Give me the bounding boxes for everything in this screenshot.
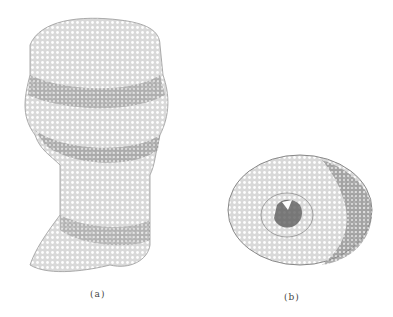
fossil-side-view-illustration	[20, 15, 170, 280]
panel-label-a: (a)	[90, 289, 105, 299]
figure-panel-b	[222, 150, 377, 270]
panel-label-b: (b)	[284, 292, 300, 302]
figure-panel-a	[20, 15, 170, 280]
fossil-top-view-illustration	[222, 150, 377, 270]
